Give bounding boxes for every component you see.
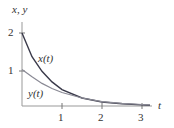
x-tick-3: 3 bbox=[138, 111, 144, 123]
x-curve-label: x(t) bbox=[38, 52, 53, 64]
y-axis-label: x, y bbox=[12, 3, 27, 15]
plot-area bbox=[0, 0, 174, 128]
x-axis-label: t bbox=[158, 99, 161, 111]
y-curve-label: y(t) bbox=[28, 87, 43, 99]
x-tick-1: 1 bbox=[58, 111, 64, 123]
y-tick-1: 1 bbox=[8, 64, 14, 76]
y-tick-2: 2 bbox=[8, 26, 14, 38]
x-tick-2: 2 bbox=[98, 111, 104, 123]
